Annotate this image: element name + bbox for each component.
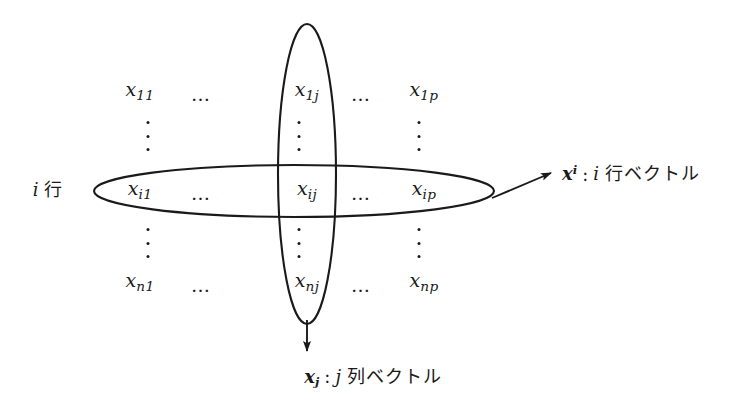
column-vector-index: j <box>335 366 341 387</box>
row-vector-symbol: x <box>562 163 573 184</box>
matrix-entry-xnj: xnj <box>295 271 320 294</box>
rowi-ellipsis-right: … <box>351 184 373 203</box>
matrix-vector-diagram: x11 … x1j … x1p i 行 xi1 … xij … xip xn1 … <box>0 0 748 416</box>
columnp-vertical-ellipsis-upper <box>418 121 421 151</box>
row-vector-arrow <box>492 173 551 198</box>
columnj-vertical-ellipsis-upper <box>298 121 301 151</box>
row-index-marker: i 行 <box>33 181 64 199</box>
matrix-entry-x11: x11 <box>126 80 155 103</box>
columnp-vertical-ellipsis-lower <box>418 228 421 258</box>
column-vector-text: 列ベクトル <box>347 366 442 387</box>
rown-ellipsis-right: … <box>351 276 373 295</box>
diagram-shapes-layer <box>0 0 748 416</box>
matrix-entry-x1p: x1p <box>410 80 439 103</box>
rown-ellipsis-left: … <box>191 276 213 295</box>
matrix-entry-xip: xip <box>412 179 437 202</box>
row-vector-text: 行ベクトル <box>605 163 700 184</box>
columnj-vertical-ellipsis-lower <box>298 228 301 258</box>
column-vector-colon: : <box>319 366 335 387</box>
matrix-entry-x1j: x1j <box>295 80 319 103</box>
column1-vertical-ellipsis-upper <box>147 121 150 151</box>
rowi-ellipsis-left: … <box>191 184 213 203</box>
row-vector-index: i <box>593 163 599 184</box>
matrix-entry-xij: xij <box>297 179 317 202</box>
row-vector-colon: : <box>577 163 593 184</box>
matrix-entry-xn1: xn1 <box>125 271 154 294</box>
column1-vertical-ellipsis-lower <box>147 228 150 258</box>
column-vector-symbol: x <box>304 366 315 387</box>
matrix-entry-xnp: xnp <box>409 271 438 294</box>
row1-ellipsis-left: … <box>191 85 213 104</box>
matrix-entry-xi1: xi1 <box>128 179 153 202</box>
column-vector-label: xj:j 列ベクトル <box>304 368 441 389</box>
row-vector-label: xi:i 行ベクトル <box>562 165 700 184</box>
row1-ellipsis-right: … <box>351 85 373 104</box>
